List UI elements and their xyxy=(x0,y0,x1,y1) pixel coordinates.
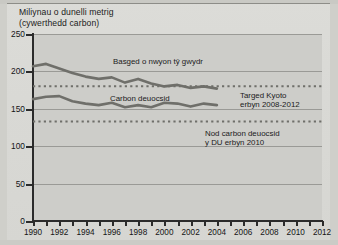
chart-figure: 050100150200250 199019921994199619982000… xyxy=(0,0,338,245)
annotation-kyoto-target: Targed Kyoto erbyn 2008-2012 xyxy=(240,91,300,109)
series-line-greenhouse-gas-basket xyxy=(33,64,217,89)
data-series-group xyxy=(0,0,338,245)
annotation-greenhouse-gas-basket: Basged o nwyon tŷ gwydr xyxy=(113,57,203,66)
annotation-carbon-dioxide: Carbon deuocsid xyxy=(110,94,170,103)
annotation-uk-co2-target: Nod carbon deuocsid y DU erbyn 2010 xyxy=(205,129,280,147)
